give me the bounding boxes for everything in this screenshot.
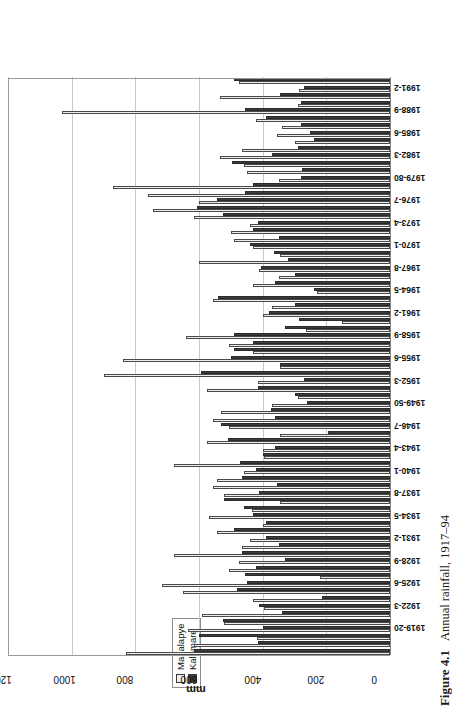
bar-kalamare-1932-3 <box>266 536 390 539</box>
bar-mahalapye-1943-4 <box>264 456 390 459</box>
bar-mahalapye-1952-3 <box>207 389 390 392</box>
bar-kalamare-1929-30 <box>285 558 390 561</box>
bar-mahalapye-1922-3 <box>202 614 390 617</box>
bar-mahalapye-1986-7 <box>277 134 390 137</box>
gridline-1200 <box>8 77 9 655</box>
bar-kalamare-1928-9 <box>256 566 390 569</box>
bar-kalamare-1985-6 <box>314 138 390 141</box>
bar-mahalapye-1990-1 <box>298 104 390 107</box>
bar-mahalapye-1937-8 <box>280 501 390 504</box>
category-label-1931-2: 1931-2 <box>394 533 420 543</box>
value-tick-600: 600 <box>181 674 215 685</box>
bar-kalamare-1992-3 <box>304 86 390 89</box>
bar-mahalapye-1941-2 <box>244 471 390 474</box>
bar-mahalapye-1936-7 <box>252 509 390 512</box>
bar-kalamare-1967-8 <box>295 273 391 276</box>
bar-mahalapye-1929-30 <box>239 561 390 564</box>
bar-mahalapye-1967-8 <box>279 276 390 279</box>
bar-mahalapye-1980-1 <box>279 179 390 182</box>
bar-kalamare-1977-8 <box>217 198 390 201</box>
bar-kalamare-1953-4 <box>304 378 390 381</box>
bar-kalamare-1971-2 <box>250 243 390 246</box>
bar-kalamare-1965-6 <box>314 288 390 291</box>
category-label-1964-5: 1964-5 <box>394 285 420 295</box>
category-label-1976-7: 1976-7 <box>394 195 420 205</box>
bar-mahalapye-1938-9 <box>224 494 390 497</box>
bar-kalamare-1976-7 <box>197 206 390 209</box>
bar-kalamare-1933-4 <box>234 528 390 531</box>
bar-mahalapye-1956-7 <box>123 359 390 362</box>
bar-kalamare-1980-1 <box>301 176 390 179</box>
bar-mahalapye-1921-2 <box>224 622 390 625</box>
bar-kalamare-1964-5 <box>218 296 390 299</box>
bar-mahalapye-1979-80 <box>113 186 390 189</box>
bar-kalamare-1937-8 <box>224 498 390 501</box>
bar-mahalapye-1964-5 <box>213 299 390 302</box>
bar-kalamare-1963-4 <box>295 303 391 306</box>
bar-kalamare-1972-3 <box>279 236 390 239</box>
category-label-1958-9: 1958-9 <box>394 330 420 340</box>
bar-kalamare-1931-2 <box>279 543 390 546</box>
bar-kalamare-1949-50 <box>271 408 390 411</box>
value-axis-title: mm <box>186 684 206 696</box>
bar-kalamare-1942-3 <box>240 461 390 464</box>
bar-kalamare-1993-4 <box>234 78 390 81</box>
bar-mahalapye-1974-5 <box>250 224 390 227</box>
bar-mahalapye-1919-20 <box>257 637 390 640</box>
bar-mahalapye-1947-8 <box>229 426 390 429</box>
bar-mahalapye-1917-18 <box>126 652 390 655</box>
bar-kalamare-1926-7 <box>247 581 390 584</box>
bar-mahalapye-1989-90 <box>62 111 390 114</box>
bar-mahalapye-1942-3 <box>174 464 390 467</box>
bar-kalamare-1969-70 <box>288 258 390 261</box>
bar-mahalapye-1945-6 <box>207 441 390 444</box>
plot-area <box>8 78 390 656</box>
category-label-1937-8: 1937-8 <box>394 488 420 498</box>
bar-kalamare-1939-40 <box>277 483 390 486</box>
bar-kalamare-1950-1 <box>307 401 390 404</box>
bar-mahalapye-1923-4 <box>264 607 390 610</box>
bar-mahalapye-1920-1 <box>188 629 390 632</box>
bar-mahalapye-1939-40 <box>213 486 390 489</box>
bar-mahalapye-1928-9 <box>229 569 390 572</box>
rotated-figure-wrapper: Mahalapye Kalamare mm 020040060080010001… <box>0 0 457 714</box>
bar-kalamare-1986-7 <box>310 131 390 134</box>
bar-mahalapye-1962-3 <box>263 314 390 317</box>
bar-kalamare-1919-20 <box>199 634 390 637</box>
category-label-1967-8: 1967-8 <box>394 263 420 273</box>
bar-kalamare-1951-2 <box>295 393 391 396</box>
gridline-800 <box>135 77 136 655</box>
bar-mahalapye-1963-4 <box>272 306 390 309</box>
bar-mahalapye-1955-6 <box>280 366 390 369</box>
bar-mahalapye-1978-9 <box>148 194 390 197</box>
bar-kalamare-1917-18 <box>194 649 390 652</box>
bar-kalamare-1944-5 <box>275 446 390 449</box>
bar-kalamare-1978-9 <box>245 191 390 194</box>
category-label-1991-2: 1991-2 <box>394 83 420 93</box>
bar-mahalapye-1992-3 <box>299 89 390 92</box>
chart-figure: Mahalapye Kalamare mm 020040060080010001… <box>0 0 457 714</box>
category-label-1982-3: 1982-3 <box>394 150 420 160</box>
bar-mahalapye-1951-2 <box>298 396 390 399</box>
category-label-1943-4: 1943-4 <box>394 443 420 453</box>
category-label-1919-20: 1919-20 <box>394 623 425 633</box>
bar-kalamare-1955-6 <box>280 363 390 366</box>
bar-mahalapye-1970-1 <box>280 254 390 257</box>
bar-kalamare-1948-9 <box>275 416 390 419</box>
bar-mahalapye-1965-6 <box>317 291 390 294</box>
bar-kalamare-1954-5 <box>201 371 390 374</box>
bar-kalamare-1920-1 <box>263 626 390 629</box>
bar-kalamare-1947-8 <box>221 423 390 426</box>
bar-kalamare-1974-5 <box>258 221 390 224</box>
category-label-1952-3: 1952-3 <box>394 376 420 386</box>
bar-kalamare-1943-4 <box>263 453 390 456</box>
bar-kalamare-1968-9 <box>261 266 390 269</box>
bar-kalamare-1922-3 <box>282 611 390 614</box>
bar-kalamare-1924-5 <box>322 596 390 599</box>
bar-kalamare-1921-2 <box>223 619 390 622</box>
bar-mahalapye-1960-1 <box>306 329 390 332</box>
bar-kalamare-1958-9 <box>253 341 390 344</box>
bar-mahalapye-1927-8 <box>320 577 390 580</box>
value-tick-200: 200 <box>308 674 342 685</box>
bar-mahalapye-1935-6 <box>209 516 390 519</box>
